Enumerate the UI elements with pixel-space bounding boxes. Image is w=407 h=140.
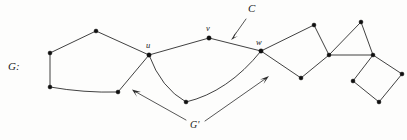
vertex-label-u: u (146, 40, 150, 50)
edge-quad-right-to-quad-bottom (301, 55, 329, 78)
node-square-left (351, 79, 355, 83)
edge-pentagon-top-to-left-upper (50, 31, 96, 53)
text-label-layer: G: u v w C G' (8, 2, 262, 130)
edge-triangle-right-to-square-left (353, 55, 373, 81)
node-quad-bottom (299, 76, 303, 80)
node-quad-right (327, 53, 331, 57)
edge-layer (50, 22, 402, 102)
arrow-head-cycle-C (231, 32, 238, 40)
node-vertex-v (207, 36, 211, 40)
node-vertex-w (259, 49, 263, 53)
vertex-label-w: w (256, 37, 262, 47)
arrow-to-subgraph-left (136, 92, 186, 120)
cycle-label-C: C (248, 2, 256, 14)
node-lower-curve-vertex (184, 100, 188, 104)
edge-pentagon-top-to-u (96, 31, 149, 55)
node-triangle-apex (359, 20, 363, 24)
node-pentagon-bottom-right (116, 90, 120, 94)
arrow-to-cycle-C (234, 19, 246, 36)
arrow-head-subgraph-right (260, 76, 269, 84)
node-vertex-u (147, 53, 151, 57)
edge-u-to-v (149, 38, 209, 55)
annotation-arrow-layer (132, 19, 269, 121)
node-pentagon-left-lower (48, 85, 52, 89)
edge-triangle-apex-to-triangle-right (361, 22, 373, 55)
edge-square-left-to-square-bottom (353, 81, 379, 102)
node-square-bottom (377, 100, 381, 104)
edge-quad-top-to-quad-right (314, 25, 329, 55)
node-quad-top (312, 23, 316, 27)
edge-triangle-right-to-square-right (373, 55, 402, 74)
arrow-head-subgraph-left (132, 90, 141, 98)
edge-w-to-quad-top (261, 25, 314, 51)
subgraph-label-Gprime: G' (190, 119, 200, 130)
node-pentagon-left-upper (48, 51, 52, 55)
edge-square-bottom-to-square-right (379, 74, 402, 102)
node-pentagon-top (94, 29, 98, 33)
arrow-to-subgraph-right (205, 79, 265, 121)
graph-label: G: (8, 60, 20, 72)
vertex-label-v: v (206, 23, 210, 33)
graph-figure: G: u v w C G' (0, 0, 407, 140)
edge-v-to-w (209, 38, 261, 51)
edge-bottom-right-to-u (118, 55, 149, 92)
edge-lower-curve-vertex-to-w (186, 51, 261, 102)
edge-left-lower-to-bottom-right (50, 87, 118, 92)
edge-quad-bottom-to-w (261, 51, 301, 78)
node-triangle-right (371, 53, 375, 57)
edge-u-to-lower-curve-vertex (149, 55, 186, 102)
node-square-right (400, 72, 404, 76)
edge-quad-right-to-triangle-apex (329, 22, 361, 55)
